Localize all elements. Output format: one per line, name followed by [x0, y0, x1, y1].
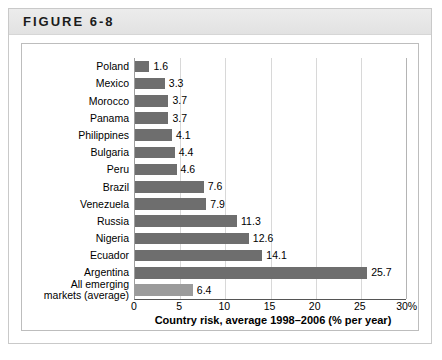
bar: [135, 147, 175, 159]
bar-row: 6.4: [135, 282, 406, 299]
bar: [135, 198, 206, 210]
category-label-row: Poland: [22, 58, 134, 75]
category-label-row: Nigeria: [22, 230, 134, 247]
category-label: Venezuela: [80, 199, 129, 210]
category-label-row: Mexico: [22, 75, 134, 92]
bar-row: 3.7: [135, 92, 406, 109]
category-label: Philippines: [78, 130, 129, 141]
bar-value-label: 25.7: [371, 266, 391, 278]
category-label: Nigeria: [96, 233, 129, 244]
x-axis-title: Country risk, average 1998–2006 (% per y…: [134, 314, 412, 326]
category-label: Morocco: [89, 96, 129, 107]
category-axis-labels: PolandMexicoMoroccoPanamaPhilippinesBulg…: [22, 58, 134, 299]
bar: [135, 61, 149, 73]
category-label: Panama: [90, 113, 129, 124]
bar: [135, 215, 237, 227]
category-label: All emerging markets (average): [44, 279, 129, 300]
bar-row: 3.7: [135, 110, 406, 127]
bar-value-label: 4.1: [176, 129, 191, 141]
category-label-row: All emerging markets (average): [22, 281, 134, 298]
bar: [135, 112, 168, 124]
bar-row: 25.7: [135, 264, 406, 281]
bar-row: 3.3: [135, 75, 406, 92]
category-label: Argentina: [84, 267, 129, 278]
bar-value-label: 14.1: [266, 249, 286, 261]
bar-row: 1.6: [135, 58, 406, 75]
bar-value-label: 4.6: [181, 163, 196, 175]
category-label: Poland: [96, 61, 129, 72]
bar-value-label: 1.6: [153, 60, 168, 72]
bar-value-label: 7.6: [208, 180, 223, 192]
x-tick-label: 20: [309, 300, 321, 312]
category-label-row: Bulgaria: [22, 144, 134, 161]
bar-row: 4.4: [135, 144, 406, 161]
category-label: Mexico: [96, 78, 129, 89]
figure-card: FIGURE 6-8 PolandMexicoMoroccoPanamaPhil…: [8, 8, 432, 344]
bar-value-label: 3.3: [169, 77, 184, 89]
bar-row: 4.6: [135, 161, 406, 178]
x-tick-label: 10: [218, 300, 230, 312]
category-label-row: Philippines: [22, 127, 134, 144]
category-label-row: Morocco: [22, 92, 134, 109]
figure-number-label: FIGURE 6-8: [23, 14, 115, 29]
bar: [135, 267, 367, 279]
x-tick-label: 15: [264, 300, 276, 312]
bar-chart: PolandMexicoMoroccoPanamaPhilippinesBulg…: [22, 44, 418, 330]
category-label: Russia: [97, 216, 129, 227]
category-label: Brazil: [103, 182, 129, 193]
figure-banner: FIGURE 6-8: [9, 9, 431, 35]
bar-row: 14.1: [135, 247, 406, 264]
gridline: [406, 58, 407, 299]
x-tick-label: 0: [131, 300, 137, 312]
bar-row: 7.9: [135, 196, 406, 213]
bar-value-label: 3.7: [172, 112, 187, 124]
chart-panel: PolandMexicoMoroccoPanamaPhilippinesBulg…: [21, 43, 419, 331]
bar: [135, 129, 172, 141]
bar: [135, 164, 177, 176]
x-tick-label: 25: [354, 300, 366, 312]
plot-area: 1.63.33.73.74.14.44.67.67.911.312.614.12…: [134, 58, 406, 300]
bar-value-label: 6.4: [197, 284, 212, 296]
x-tick-label: 5: [176, 300, 182, 312]
category-label-row: Russia: [22, 213, 134, 230]
bar-row: 12.6: [135, 230, 406, 247]
category-label: Bulgaria: [90, 147, 129, 158]
bar-row: 7.6: [135, 178, 406, 195]
bar-value-label: 11.3: [241, 215, 261, 227]
category-label: Peru: [107, 164, 129, 175]
figure-root: FIGURE 6-8 PolandMexicoMoroccoPanamaPhil…: [0, 0, 442, 360]
bar-value-label: 3.7: [172, 94, 187, 106]
category-label-row: Brazil: [22, 178, 134, 195]
bar: [135, 284, 193, 296]
bar: [135, 78, 165, 90]
bar-value-label: 12.6: [253, 232, 273, 244]
category-label-row: Panama: [22, 110, 134, 127]
bar-value-label: 4.4: [179, 146, 194, 158]
category-label-row: Ecuador: [22, 247, 134, 264]
category-label-row: Peru: [22, 161, 134, 178]
bar-row: 11.3: [135, 213, 406, 230]
bar: [135, 95, 168, 107]
bar-value-label: 7.9: [210, 198, 225, 210]
category-label: Ecuador: [90, 250, 129, 261]
bar: [135, 250, 262, 262]
x-axis-tick-labels: 051015202530%: [134, 300, 405, 314]
bar: [135, 181, 204, 193]
bar-row: 4.1: [135, 127, 406, 144]
category-label-row: Venezuela: [22, 196, 134, 213]
x-tick-label: 30%: [396, 300, 417, 312]
bar: [135, 233, 249, 245]
